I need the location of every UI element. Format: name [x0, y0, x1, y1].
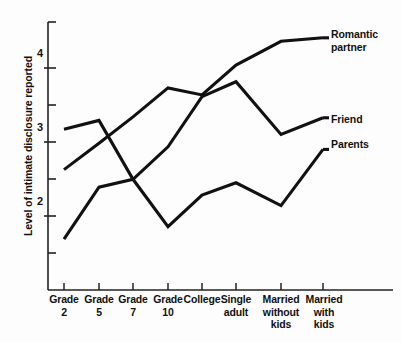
series-label-line-1: Romantic [331, 28, 378, 41]
series-label-romantic-partner: Romantic partner [331, 28, 378, 53]
x-tick-line-1: Married [300, 293, 348, 306]
x-tick-line-2: 10 [144, 306, 192, 319]
chart-container: Level of intimate disclosure reported 2 … [0, 0, 401, 343]
series-label-line-1: Parents [331, 138, 369, 151]
x-tick-line-2: with [300, 306, 348, 319]
x-tick-label-married-with-kids: Married with kids [300, 293, 348, 331]
y-axis-ticks [44, 22, 56, 253]
series-line-romantic-partner [64, 38, 323, 170]
series-lines [64, 38, 329, 239]
series-label-friend: Friend [331, 113, 363, 126]
x-tick-line-3: kids [300, 318, 348, 331]
axis-lines [48, 22, 393, 290]
x-axis-ticks [64, 283, 323, 290]
series-label-line-1: Friend [331, 113, 363, 126]
series-label-line-2: partner [331, 41, 378, 54]
series-line-parents [64, 120, 323, 226]
series-label-parents: Parents [331, 138, 369, 151]
series-line-friend [64, 82, 323, 239]
